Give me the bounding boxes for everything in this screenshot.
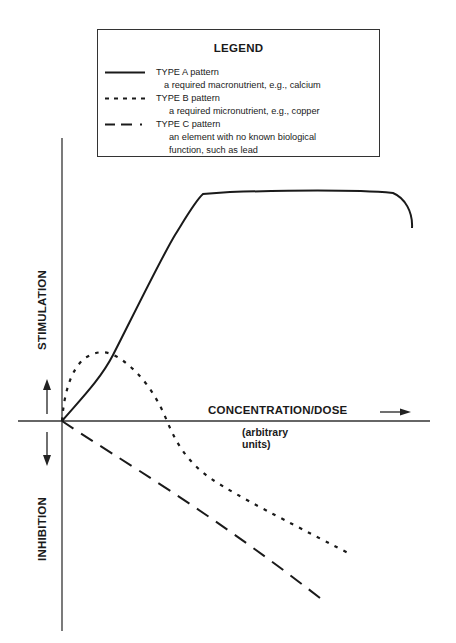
legend-desc: an element with no known biological [169,131,316,144]
legend-name: TYPE C pattern [156,118,220,131]
legend-desc: function, such as lead [169,144,258,157]
legend-desc: a required macronutrient, e.g., calcium [164,79,321,92]
y-axis-stimulation-label: STIMULATION [36,265,48,355]
x-axis-units-line2: units) [242,439,288,451]
x-axis-units-line1: (arbitrary [242,427,288,439]
x-axis-label: CONCENTRATION/DOSE [208,404,347,416]
legend-title: LEGEND [98,42,379,54]
x-axis-units: (arbitrary units) [242,427,288,450]
legend-desc: a required micronutrient, e.g., copper [169,105,320,118]
type-a-curve [62,191,412,421]
up-arrow-icon [43,379,51,414]
right-arrow-icon [380,409,411,416]
legend-name: TYPE B pattern [156,92,220,105]
dash-dot-line-swatch-icon [105,123,145,126]
solid-line-swatch-icon [105,71,145,74]
legend-name: TYPE A pattern [156,66,219,79]
type-b-curve [62,352,348,553]
legend: LEGEND TYPE A pattern a required macronu… [97,29,380,157]
y-axis-inhibition-label: INHIBITION [36,484,48,574]
dotted-line-swatch-icon [105,97,145,100]
down-arrow-icon [43,432,51,466]
